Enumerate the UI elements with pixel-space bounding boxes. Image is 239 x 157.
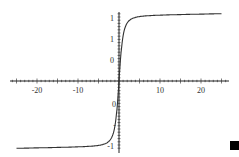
line-chart: -20-1010201100--1 (0, 0, 239, 157)
svg-text:20: 20 (197, 86, 205, 95)
svg-text:-10: -10 (73, 86, 84, 95)
svg-text:1: 1 (110, 35, 114, 44)
axes (10, 12, 229, 153)
svg-text:0: 0 (110, 56, 114, 65)
svg-text:1: 1 (110, 14, 114, 23)
svg-text:10: 10 (156, 86, 164, 95)
svg-text:-1: -1 (107, 142, 114, 151)
svg-text:0: 0 (112, 100, 116, 109)
black-square-marker (230, 141, 239, 150)
svg-text:-20: -20 (32, 86, 43, 95)
